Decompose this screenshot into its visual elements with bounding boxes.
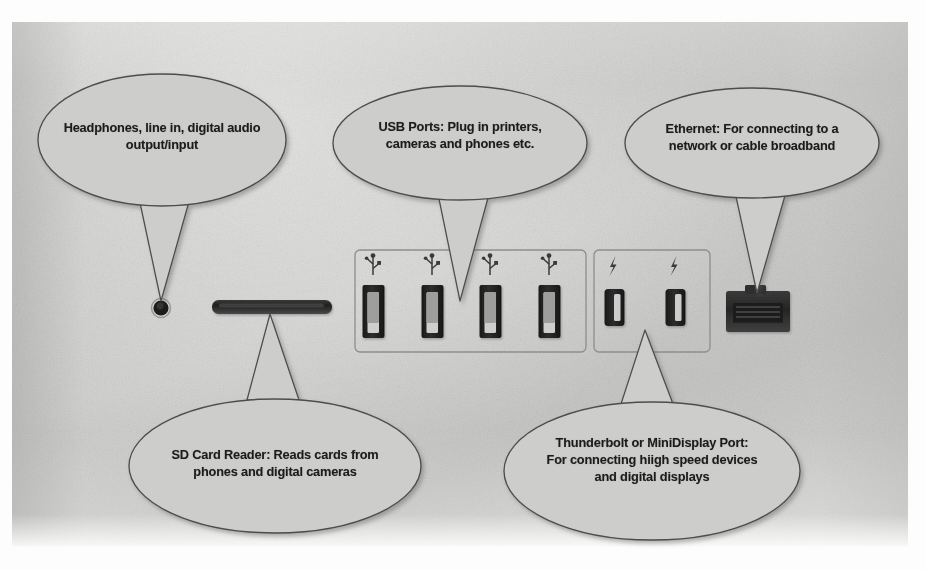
photo-bottom-fade — [12, 514, 908, 548]
paper-grain-texture — [12, 22, 908, 546]
screenshot-root: Headphones, line in, digital audio outpu… — [0, 0, 925, 570]
photo-vignette — [12, 22, 908, 546]
photo-of-port-panel — [12, 22, 908, 546]
